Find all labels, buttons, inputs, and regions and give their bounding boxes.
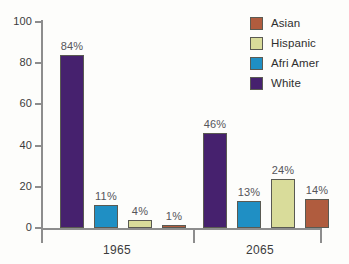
y-tick-mark — [35, 145, 41, 147]
legend-item-label: Afri Amer — [271, 57, 319, 69]
bar-chart: 100806040200 84%11%4%1%46%13%24%14% 1965… — [0, 0, 349, 264]
bar — [271, 179, 295, 228]
group-tick-middle — [193, 230, 195, 243]
bar-value-label: 13% — [229, 186, 269, 198]
y-tick-label: 20 — [4, 180, 32, 192]
legend-item-label: Asian — [271, 17, 300, 29]
bar — [237, 201, 261, 228]
legend-item[interactable]: Hispanic — [250, 34, 319, 52]
bar — [305, 199, 329, 228]
y-tick-mark — [35, 103, 41, 105]
y-tick-mark — [35, 186, 41, 188]
legend-item[interactable]: White — [250, 74, 319, 92]
legend-item-label: White — [271, 77, 301, 89]
legend-swatch-icon — [250, 17, 263, 30]
x-axis-label-2065: 2065 — [230, 243, 290, 257]
bar — [94, 205, 118, 228]
legend-swatch-icon — [250, 57, 263, 70]
y-tick-label: 60 — [4, 97, 32, 109]
bar — [60, 55, 84, 228]
y-tick-mark — [35, 227, 41, 229]
y-tick-label: 80 — [4, 56, 32, 68]
bar-value-label: 46% — [195, 118, 235, 130]
bar — [203, 133, 227, 228]
x-axis-label-1965: 1965 — [87, 243, 147, 257]
legend-swatch-icon — [250, 77, 263, 90]
legend: AsianHispanicAfri AmerWhite — [250, 14, 319, 94]
y-tick-mark — [35, 62, 41, 64]
bar-value-label: 84% — [52, 40, 92, 52]
bar-value-label: 24% — [263, 164, 303, 176]
bar-value-label: 11% — [86, 190, 126, 202]
group-tick-right — [320, 230, 322, 243]
bar — [128, 220, 152, 228]
bar-value-label: 14% — [297, 184, 337, 196]
y-tick-mark — [35, 21, 41, 23]
legend-item[interactable]: Asian — [250, 14, 319, 32]
bar — [162, 225, 186, 228]
legend-item[interactable]: Afri Amer — [250, 54, 319, 72]
y-tick-label: 40 — [4, 139, 32, 151]
y-tick-label: 100 — [4, 15, 32, 27]
y-tick-label: 0 — [4, 221, 32, 233]
group-tick-left — [41, 230, 43, 243]
y-axis-line — [41, 20, 43, 230]
x-axis-line — [41, 228, 322, 230]
legend-swatch-icon — [250, 37, 263, 50]
legend-item-label: Hispanic — [271, 37, 316, 49]
bar-value-label: 1% — [154, 210, 194, 222]
